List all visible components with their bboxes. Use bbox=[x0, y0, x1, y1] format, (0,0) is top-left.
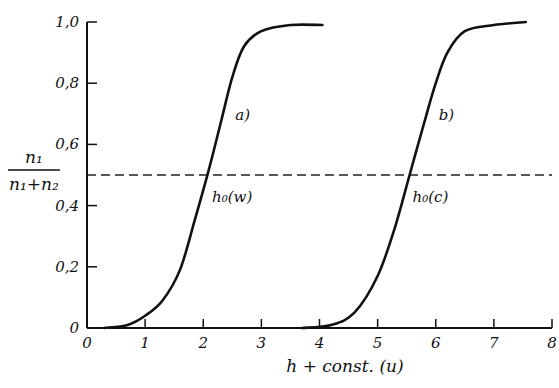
y-tick-label: 0,2 bbox=[55, 258, 79, 276]
annotations: a)h₀(w)b)h₀(c) bbox=[212, 106, 454, 206]
y-title-denominator: n₁+n₂ bbox=[9, 174, 59, 194]
x-tick-label: 1 bbox=[140, 334, 150, 352]
y-axis-title: n₁ n₁+n₂ bbox=[8, 147, 60, 194]
axis-ticks: 01234567800,20,40,60,81,0 bbox=[55, 13, 557, 352]
x-tick-label: 7 bbox=[489, 334, 499, 352]
midpoint-label: h₀(w) bbox=[212, 188, 252, 206]
y-tick-label: 0,6 bbox=[55, 135, 79, 153]
y-title-numerator: n₁ bbox=[25, 147, 43, 167]
x-tick-label: 8 bbox=[547, 334, 557, 352]
x-tick-label: 2 bbox=[197, 334, 208, 352]
midpoint-label: h₀(c) bbox=[413, 188, 449, 206]
curve-label: b) bbox=[439, 106, 455, 124]
x-axis-title: h + const. (u) bbox=[286, 356, 403, 376]
curve-label: a) bbox=[235, 106, 250, 124]
y-tick-label: 0 bbox=[69, 319, 79, 337]
curve-a bbox=[104, 25, 322, 328]
x-tick-label: 3 bbox=[257, 334, 267, 352]
y-tick-label: 1,0 bbox=[55, 13, 79, 31]
y-tick-label: 0,4 bbox=[55, 197, 79, 215]
x-tick-label: 6 bbox=[431, 334, 441, 352]
y-tick-label: 0,8 bbox=[55, 74, 79, 92]
x-tick-label: 5 bbox=[373, 334, 383, 352]
x-tick-label: 0 bbox=[82, 334, 92, 352]
x-tick-label: 4 bbox=[314, 334, 325, 352]
chart: 01234567800,20,40,60,81,0 a)h₀(w)b)h₀(c)… bbox=[0, 0, 559, 388]
